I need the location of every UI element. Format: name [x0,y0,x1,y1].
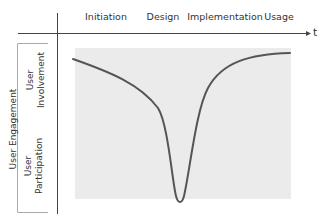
phase-label-implementation: Implementation [187,11,262,22]
y-sublabel-user-participation: User Participation [23,131,45,201]
engagement-curve [73,53,290,202]
y-sublabel-user-involvement: User Involvement [25,45,47,115]
time-axis-label: t [313,26,317,39]
phase-label-initiation: Initiation [85,11,127,22]
diagram-lines [0,0,324,224]
y-sublabel-user-participation-text: User Participation [23,134,45,198]
phase-label-usage: Usage [264,11,294,22]
phase-label-design: Design [147,11,180,22]
y-sublabel-user-involvement-text: User Involvement [25,49,47,111]
y-axis-group-label: User Engagement [8,89,19,170]
time-axis-arrow-icon [306,31,311,36]
